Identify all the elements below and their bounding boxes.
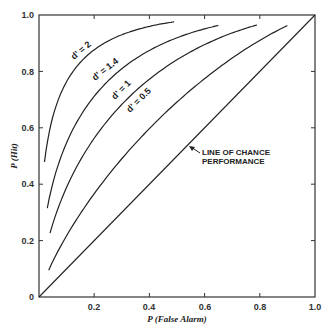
- y-tick-label: 0.8: [21, 67, 34, 77]
- x-tick-label: 0.4: [143, 302, 156, 312]
- roc-chart: 0.2 0.4 0.6 0.8 1.0 0 0.2 0.4 0.6 0.8 1.…: [0, 0, 333, 336]
- x-tick-label: 0.8: [254, 302, 267, 312]
- x-tick-label: 0.2: [88, 302, 101, 312]
- annotation-line-1: LINE OF CHANCE: [202, 148, 271, 157]
- chance-line: [39, 15, 315, 297]
- y-tick-label: 0: [29, 292, 34, 302]
- y-tick-label: 1.0: [21, 10, 34, 20]
- x-tick-label: 0.6: [199, 302, 212, 312]
- y-tick-label: 0.4: [21, 179, 34, 189]
- curve-label-d2: d' = 2: [69, 39, 93, 61]
- x-tick-label: 1.0: [309, 302, 322, 312]
- y-tick-label: 0.2: [21, 236, 34, 246]
- y-tick-label: 0.6: [21, 123, 34, 133]
- roc-curve-d2: [45, 22, 175, 162]
- curve-label-d1-4: d' = 1.4: [90, 56, 120, 83]
- chance-annotation: LINE OF CHANCE PERFORMANCE: [189, 146, 271, 166]
- curve-label-d0-5: d' = 0.5: [124, 86, 153, 115]
- x-axis-title: P (False Alarm): [147, 314, 206, 324]
- y-axis-title: P (Hit): [9, 143, 19, 168]
- annotation-line-2: PERFORMANCE: [202, 157, 265, 166]
